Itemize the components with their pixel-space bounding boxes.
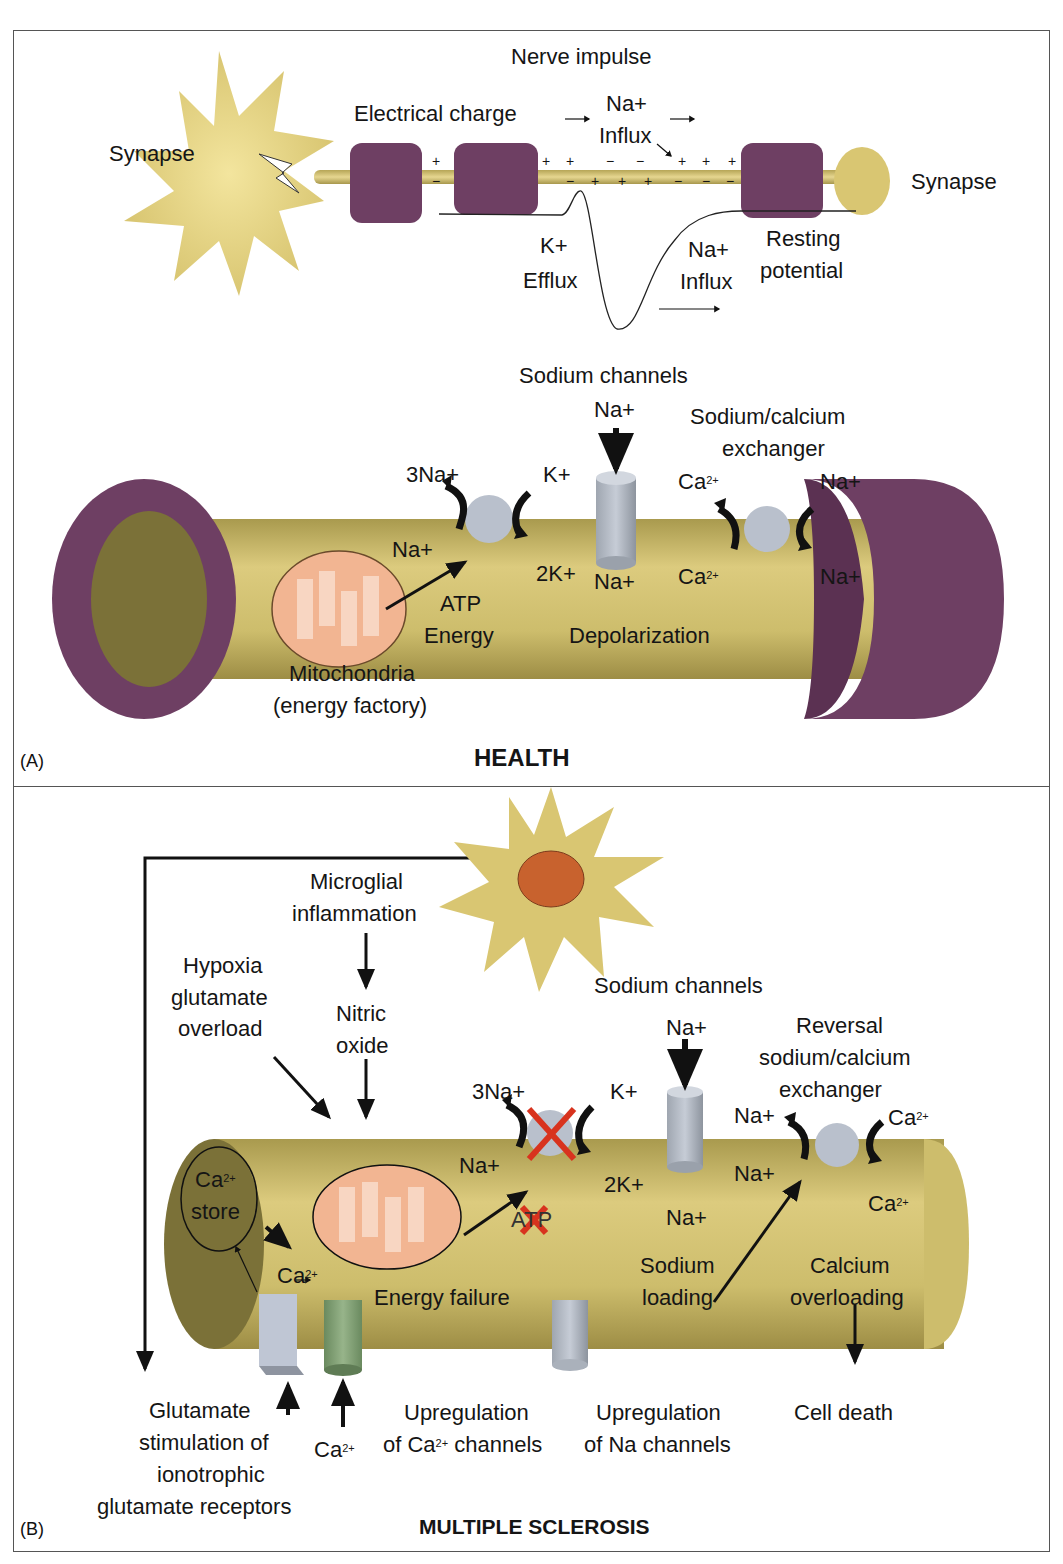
panel-a-title: HEALTH xyxy=(474,745,570,771)
charge-plus: + xyxy=(644,168,652,194)
na-bottom-label: Na+ xyxy=(594,569,635,595)
na-top-label: Na+ xyxy=(594,397,635,423)
panel-letter-a: (A) xyxy=(20,751,44,772)
nerve-impulse-title: Nerve impulse xyxy=(511,44,652,70)
reversal-label-1: Reversal xyxy=(796,1013,883,1039)
hypoxia-label-3: overload xyxy=(178,1016,262,1042)
na-top-label: Na+ xyxy=(666,1015,707,1041)
synapse-right-label: Synapse xyxy=(911,169,997,195)
hypoxia-label-1: Hypoxia xyxy=(183,953,262,979)
upregulation-ca-label-2: of Ca2+ channels xyxy=(383,1432,542,1458)
panel-letter-b: (B) xyxy=(20,1519,44,1540)
energy-failure-label: Energy failure xyxy=(374,1285,510,1311)
panel-a-health: Nerve impulse Synapse Synapse Electrical… xyxy=(13,30,1050,787)
myelin-segment xyxy=(454,143,538,215)
glutamate-receptor-icon xyxy=(259,1294,297,1366)
calcium-overloading-label-1: Calcium xyxy=(810,1253,889,1279)
energy-label: Energy xyxy=(424,623,494,649)
glutamate-label-1: Glutamate xyxy=(149,1398,251,1424)
sodium-loading-label-2: loading xyxy=(642,1285,713,1311)
k-efflux-label-2: Efflux xyxy=(523,268,578,294)
pump-na-label: Na+ xyxy=(392,537,433,563)
exchanger-na-bottom-label: Na+ xyxy=(734,1161,775,1187)
charge-minus: − xyxy=(566,168,574,194)
resting-potential-label-1: Resting xyxy=(766,226,841,252)
microglial-label-2: inflammation xyxy=(292,901,417,927)
nitric-oxide-label-1: Nitric xyxy=(336,1001,386,1027)
resting-potential-label-2: potential xyxy=(760,258,843,284)
atp-label: ATP xyxy=(440,591,481,617)
charge-minus: − xyxy=(702,168,710,194)
upregulation-na-label-2: of Na channels xyxy=(584,1432,731,1458)
na-influx-top-label-2: Influx xyxy=(599,123,652,149)
pump-k-label: K+ xyxy=(610,1079,638,1105)
ca-inner-label: Ca2+ xyxy=(277,1263,318,1289)
charge-plus: + xyxy=(542,148,550,174)
sodium-channels-label: Sodium channels xyxy=(594,973,763,999)
reversal-label-3: exchanger xyxy=(779,1077,882,1103)
charge-minus: − xyxy=(432,168,440,194)
calcium-channel-icon xyxy=(324,1300,362,1370)
nitric-oxide-label-2: oxide xyxy=(336,1033,389,1059)
ca-store-label-1: Ca2+ xyxy=(195,1167,236,1193)
microglia-nucleus-icon xyxy=(518,851,584,907)
microglial-label-1: Microglial xyxy=(310,869,403,895)
exchanger-na-top-label: Na+ xyxy=(820,469,861,495)
upregulation-ca-label-1: Upregulation xyxy=(404,1400,529,1426)
depolarization-label: Depolarization xyxy=(569,623,710,649)
electrical-charge-label: Electrical charge xyxy=(354,101,517,127)
charge-minus: − xyxy=(636,148,644,174)
hypoxia-label-2: glutamate xyxy=(171,985,268,1011)
synapse-burst-icon xyxy=(124,51,334,296)
sodium-potassium-pump-icon xyxy=(465,495,513,543)
exchanger-ca-top-label: Ca2+ xyxy=(888,1105,929,1131)
exchanger-ca-bottom-label: Ca2+ xyxy=(868,1191,909,1217)
pump-3na-label: 3Na+ xyxy=(472,1079,525,1105)
sodium-channel-icon xyxy=(596,478,636,563)
synapse-left-label: Synapse xyxy=(109,141,195,167)
myelin-segment xyxy=(741,143,823,218)
cell-death-label: Cell death xyxy=(794,1400,893,1426)
k-efflux-label-1: K+ xyxy=(540,233,568,259)
charge-minus: − xyxy=(674,168,682,194)
charge-plus: + xyxy=(591,168,599,194)
exchanger-label-1: Sodium/calcium xyxy=(690,404,845,430)
synapse-bulb-icon xyxy=(834,147,890,215)
panel-b-multiple-sclerosis: Microglial inflammation Nitric oxide Hyp… xyxy=(13,786,1050,1552)
glutamate-label-4: glutamate receptors xyxy=(97,1494,291,1520)
na-influx-bottom-label-1: Na+ xyxy=(688,237,729,263)
mitochondria-label-1: Mitochondria xyxy=(289,661,415,687)
exchanger-na-bottom-label: Na+ xyxy=(820,564,861,590)
sodium-channel-icon xyxy=(667,1092,703,1167)
na-influx-top-label-1: Na+ xyxy=(606,91,647,117)
myelin-segment xyxy=(350,143,422,223)
exchanger-label-2: exchanger xyxy=(722,436,825,462)
calcium-overloading-label-2: overloading xyxy=(790,1285,904,1311)
pump-k-label: K+ xyxy=(543,462,571,488)
charge-minus: − xyxy=(726,168,734,194)
pump-3na-label: 3Na+ xyxy=(406,462,459,488)
pump-na-label: Na+ xyxy=(459,1153,500,1179)
exchanger-ca-bottom-label: Ca2+ xyxy=(678,564,719,590)
glutamate-label-3: ionotrophic xyxy=(157,1462,265,1488)
ca-entry-label: Ca2+ xyxy=(314,1437,355,1463)
charge-minus: − xyxy=(606,148,614,174)
glutamate-label-2: stimulation of xyxy=(139,1430,269,1456)
exchanger-ca-top-label: Ca2+ xyxy=(678,469,719,495)
charge-plus: + xyxy=(618,168,626,194)
na-bottom-label: Na+ xyxy=(666,1205,707,1231)
reversed-exchanger-icon xyxy=(815,1123,859,1167)
sodium-channels-label: Sodium channels xyxy=(519,363,688,389)
sodium-calcium-exchanger-icon xyxy=(744,506,790,552)
pump-2k-label: 2K+ xyxy=(536,561,576,587)
upregulated-sodium-channel-icon xyxy=(552,1300,588,1365)
mitochondria-label-2: (energy factory) xyxy=(273,693,427,719)
sodium-loading-label-1: Sodium xyxy=(640,1253,715,1279)
exchanger-na-top-label: Na+ xyxy=(734,1103,775,1129)
ca-store-label-2: store xyxy=(191,1199,240,1225)
reversal-label-2: sodium/calcium xyxy=(759,1045,911,1071)
upregulation-na-label-1: Upregulation xyxy=(596,1400,721,1426)
atp-label: ATP xyxy=(511,1207,552,1233)
na-influx-bottom-label-2: Influx xyxy=(680,269,733,295)
pump-2k-label: 2K+ xyxy=(604,1172,644,1198)
